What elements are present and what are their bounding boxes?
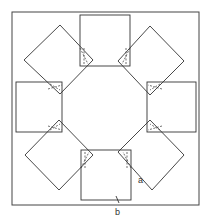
- dashed-mark: [48, 85, 62, 89]
- label-a: a: [138, 175, 143, 185]
- diamond-top-left: [24, 25, 93, 94]
- square-top: [80, 15, 130, 66]
- octagon-squares-diagram: a b: [0, 0, 207, 216]
- outer-frame: [12, 12, 199, 205]
- diamond-top-right: [118, 26, 184, 95]
- label-b: b: [115, 207, 120, 216]
- diamond-bottom-right: [118, 120, 184, 190]
- diamond-bottom-left: [25, 120, 93, 190]
- dashed-mark: [148, 126, 162, 130]
- leader-line-b: [116, 196, 119, 203]
